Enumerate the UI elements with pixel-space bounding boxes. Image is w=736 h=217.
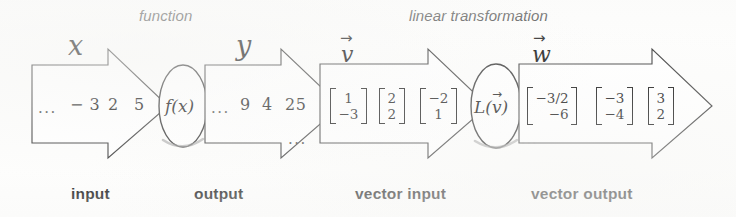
vector-output-vector-1: −3 −4	[596, 87, 633, 125]
vector-component-bottom: −6	[549, 106, 569, 122]
linear-transformation-notation-label: L( → v )	[474, 97, 508, 117]
scalar-output-value-2: 25	[285, 97, 306, 113]
caption-input: input	[71, 186, 110, 202]
vector-input-vector-1: 2 2	[379, 88, 405, 124]
vector-values: −3 −4	[602, 88, 627, 125]
vector-component-bottom: −3	[339, 106, 359, 122]
bracket-right-icon	[451, 88, 457, 124]
scalar-output-value-0: 9	[240, 97, 251, 113]
vector-component-top: 3	[657, 90, 666, 106]
scalar-output-leading-dots: ...	[211, 101, 230, 116]
vector-component-top: −2	[429, 90, 449, 106]
heading-linear-transformation: linear transformation	[409, 8, 548, 23]
label-variable-x: x	[68, 32, 83, 59]
vector-component-top: 2	[388, 90, 397, 106]
vector-input-vector-0: 1 −3	[330, 88, 367, 124]
vector-output-leading-dots: ...	[521, 133, 538, 146]
bracket-right-icon	[627, 87, 633, 125]
diagram-canvas: function linear transformation x y → v →…	[0, 0, 736, 217]
bracket-right-icon	[399, 88, 405, 124]
vector-output-vector-2: 3 2	[648, 87, 674, 125]
caption-output: output	[194, 186, 243, 202]
vector-component-top: −3	[605, 90, 625, 106]
scalar-output-trailing-dots: ...	[288, 132, 307, 147]
vector-input-vector-2: −2 1	[420, 88, 457, 124]
transformation-argument: → v	[492, 97, 502, 117]
vector-values: 2 2	[385, 88, 399, 125]
scalar-input-value-2: 5	[134, 97, 145, 113]
scalar-input-value-0: − 3	[70, 97, 100, 113]
caption-vector-output: vector output	[531, 186, 633, 202]
vector-component-bottom: 2	[388, 106, 397, 122]
overarrow-icon: →	[492, 87, 502, 101]
vector-component-top: −3/2	[536, 90, 569, 106]
heading-function: function	[139, 8, 192, 23]
vector-component-top: 1	[344, 90, 353, 106]
scalar-input-leading-dots: ...	[38, 101, 57, 116]
bracket-right-icon	[668, 87, 674, 125]
scalar-input-value-1: 2	[108, 97, 119, 113]
bracket-right-icon	[571, 87, 577, 125]
vector-values: 1 −3	[336, 88, 361, 125]
label-variable-y: y	[236, 32, 251, 59]
vector-component-bottom: 1	[434, 106, 443, 122]
vector-component-bottom: −4	[605, 106, 625, 122]
bracket-right-icon	[361, 88, 367, 124]
vector-values: 3 2	[654, 88, 668, 125]
scalar-output-value-1: 4	[262, 97, 273, 113]
vector-output-vector-0: −3/2 −6	[527, 87, 577, 125]
transformation-prefix: L(	[474, 97, 492, 117]
vector-values: −2 1	[426, 88, 451, 125]
transformation-suffix: )	[502, 97, 509, 117]
function-notation-label: f(x)	[165, 98, 194, 115]
caption-vector-input: vector input	[355, 186, 446, 202]
vector-component-bottom: 2	[657, 106, 666, 122]
vector-values: −3/2 −6	[533, 88, 571, 125]
